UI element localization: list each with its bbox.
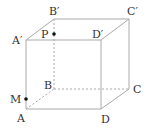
edge-c1-d1 bbox=[101, 19, 129, 40]
label-b1: B′ bbox=[49, 5, 60, 18]
label-p: P bbox=[41, 28, 49, 41]
point-p bbox=[52, 32, 56, 36]
label-d1: D′ bbox=[92, 28, 104, 41]
edge-a-b-hidden bbox=[26, 89, 54, 109]
label-a1: A′ bbox=[11, 34, 23, 47]
label-d: D bbox=[101, 113, 110, 126]
label-a: A bbox=[16, 112, 26, 125]
point-m bbox=[24, 97, 28, 101]
label-m: M bbox=[10, 93, 21, 106]
edge-d-c bbox=[101, 89, 129, 109]
edge-a1-b1 bbox=[26, 19, 54, 40]
label-c: C bbox=[133, 83, 141, 96]
label-c1: C′ bbox=[127, 5, 138, 18]
label-b: B bbox=[44, 79, 52, 92]
cube-diagram: B′ C′ A′ D′ P B C M A D bbox=[0, 0, 150, 136]
